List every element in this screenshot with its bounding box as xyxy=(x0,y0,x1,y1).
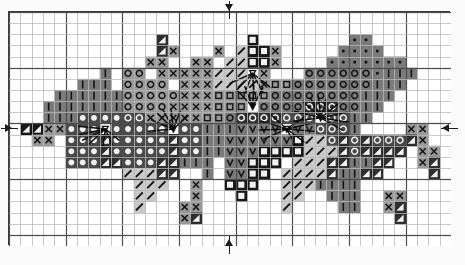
center-marker-bottom xyxy=(225,239,233,246)
cross-stitch-chart-root xyxy=(0,0,465,265)
chart-frame xyxy=(8,11,450,245)
center-marker-right xyxy=(442,124,449,132)
pattern-grid-canvas[interactable] xyxy=(9,12,451,246)
center-marker-left xyxy=(5,124,12,132)
center-marker-top xyxy=(225,4,233,11)
